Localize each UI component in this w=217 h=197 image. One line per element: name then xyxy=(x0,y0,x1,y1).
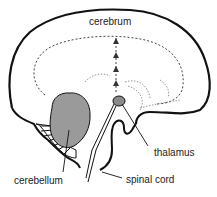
arrow-icon xyxy=(113,66,119,72)
ventricle-dotted xyxy=(128,86,142,110)
ventricle-dotted xyxy=(85,74,110,82)
label-cerebrum: cerebrum xyxy=(89,17,131,27)
ventricle-dotted xyxy=(140,100,180,108)
cerebellum-shape xyxy=(50,93,90,148)
arrow-icon xyxy=(113,52,119,58)
pituitary-outline xyxy=(100,121,136,170)
brain-diagram xyxy=(0,0,217,197)
thalamus-shape xyxy=(113,96,125,106)
ventricle-dotted xyxy=(125,81,150,98)
leader-line-thalamus xyxy=(122,104,148,146)
arrow-icon xyxy=(113,80,119,86)
cerebrum-inner-dashed xyxy=(34,36,183,104)
label-spinal-cord: spinal cord xyxy=(126,175,174,185)
label-thalamus: thalamus xyxy=(154,148,195,158)
arrow-icon xyxy=(113,38,119,44)
leader-line-spinal-cord xyxy=(102,172,122,178)
ventricle-dotted xyxy=(160,80,169,98)
label-cerebellum: cerebellum xyxy=(14,176,63,186)
